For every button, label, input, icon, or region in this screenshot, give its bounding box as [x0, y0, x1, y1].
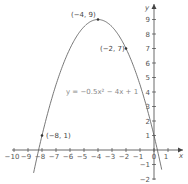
data-point [41, 134, 44, 137]
svg-text:(−4, 9): (−4, 9) [71, 11, 96, 19]
svg-text:9: 9 [146, 16, 150, 24]
data-point [97, 18, 100, 21]
parabola-plot: xy−10−9−8−7−6−5−4−3−2−101−2−1123456789(−… [0, 0, 188, 184]
svg-text:x: x [178, 152, 184, 160]
svg-text:−2: −2 [140, 176, 150, 184]
svg-text:5: 5 [146, 74, 150, 82]
svg-text:6: 6 [146, 60, 151, 68]
svg-text:8: 8 [146, 31, 150, 39]
svg-text:7: 7 [146, 45, 150, 53]
svg-text:−2: −2 [119, 153, 129, 161]
svg-text:4: 4 [146, 89, 151, 97]
chart: xy−10−9−8−7−6−5−4−3−2−101−2−1123456789(−… [0, 0, 188, 184]
svg-text:1: 1 [146, 132, 150, 140]
equation-label: y = −0.5x² − 4x + 1 [66, 88, 138, 96]
svg-text:−5: −5 [77, 153, 87, 161]
data-point [125, 47, 128, 50]
svg-text:2: 2 [146, 118, 150, 126]
svg-text:−6: −6 [63, 153, 74, 161]
svg-text:−1: −1 [140, 161, 150, 169]
svg-text:1: 1 [164, 153, 168, 161]
svg-text:(−2, 7): (−2, 7) [100, 45, 125, 53]
svg-text:−1: −1 [133, 153, 143, 161]
svg-text:y: y [144, 4, 150, 12]
svg-text:0: 0 [152, 153, 156, 161]
svg-text:−7: −7 [49, 153, 59, 161]
svg-text:−4: −4 [91, 153, 102, 161]
svg-text:−9: −9 [21, 153, 31, 161]
svg-text:−3: −3 [105, 153, 115, 161]
svg-text:−10: −10 [5, 153, 20, 161]
svg-text:(−8, 1): (−8, 1) [46, 132, 71, 140]
